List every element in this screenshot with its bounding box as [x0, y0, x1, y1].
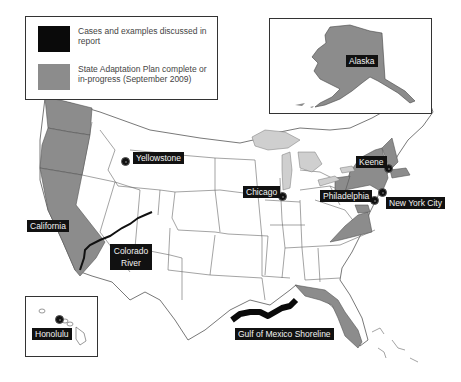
california-label: California	[27, 220, 69, 232]
hawaii-inset: Honolulu	[25, 296, 98, 357]
honolulu-marker	[55, 315, 64, 324]
yellowstone-label: Yellowstone	[133, 152, 184, 164]
caribbean-islands	[372, 328, 418, 362]
legend-swatch-adaptation	[38, 64, 70, 90]
legend-label-adaptation: State Adaptation Plan complete or in-pro…	[78, 64, 213, 84]
new-york-city-marker	[378, 188, 387, 197]
legend-item-adaptation: State Adaptation Plan complete or in-pro…	[38, 64, 213, 90]
hawaii-islands	[26, 297, 96, 355]
new-york-city-label: New York City	[386, 197, 445, 209]
state-maryland	[355, 205, 370, 213]
lake-michigan	[282, 152, 292, 190]
legend-item-cases: Cases and examples discussed in report	[38, 26, 213, 52]
colorado-river-label: Colorado River	[110, 244, 152, 270]
chicago-label: Chicago	[243, 186, 280, 198]
philadelphia-label: Philadelphia	[320, 190, 372, 202]
state-oregon	[40, 128, 90, 175]
honolulu-label: Honolulu	[32, 328, 72, 340]
alaska-inset: Alaska	[269, 18, 432, 114]
keene-label: Keene	[356, 156, 387, 168]
gulf-of-mexico-label: Gulf of Mexico Shoreline	[235, 328, 334, 340]
alaska-label: Alaska	[346, 55, 378, 67]
legend-swatch-cases	[38, 26, 70, 52]
conterminous-us	[40, 88, 433, 346]
legend-label-cases: Cases and examples discussed in report	[78, 26, 213, 46]
legend: Cases and examples discussed in report S…	[25, 16, 218, 100]
state-massachusetts	[390, 168, 410, 178]
yellowstone-marker	[121, 157, 130, 166]
